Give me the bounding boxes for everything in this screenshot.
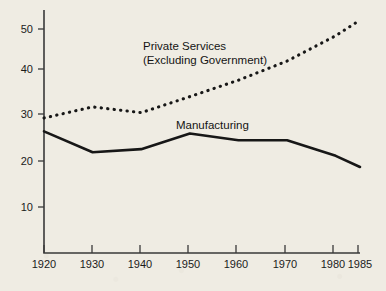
annotation-private-services-line2: (Excluding Government): [143, 54, 267, 66]
x-tick-label-1960: 1960: [224, 258, 248, 270]
x-tick-label-1985: 1985: [348, 258, 372, 270]
series-line-manufacturing: [44, 131, 360, 167]
x-axis-tick-labels: 1920 1930 1940 1950 1960 1970 1980 1985: [32, 258, 372, 270]
chart-container: 50 40 30 20 10 1920 1930 1940 1950 1960 …: [0, 0, 386, 291]
x-axis-ticks: [44, 245, 358, 253]
x-tick-label-1920: 1920: [32, 258, 56, 270]
y-tick-label-30: 30: [21, 108, 33, 120]
series-line-private-services: [44, 20, 360, 118]
annotation-private-services-line1: Private Services: [143, 40, 226, 52]
y-tick-label-20: 20: [21, 155, 33, 167]
x-tick-label-1970: 1970: [273, 258, 297, 270]
x-tick-label-1940: 1940: [128, 258, 152, 270]
x-tick-label-1950: 1950: [176, 258, 200, 270]
y-axis-tick-labels: 50 40 30 20 10: [21, 23, 33, 213]
x-tick-label-1930: 1930: [80, 258, 104, 270]
x-tick-label-1980: 1980: [321, 258, 345, 270]
annotation-manufacturing: Manufacturing: [176, 119, 249, 131]
employment-share-line-chart: 50 40 30 20 10 1920 1930 1940 1950 1960 …: [0, 0, 386, 291]
y-tick-label-40: 40: [21, 63, 33, 75]
y-tick-label-50: 50: [21, 23, 33, 35]
y-tick-label-10: 10: [21, 201, 33, 213]
